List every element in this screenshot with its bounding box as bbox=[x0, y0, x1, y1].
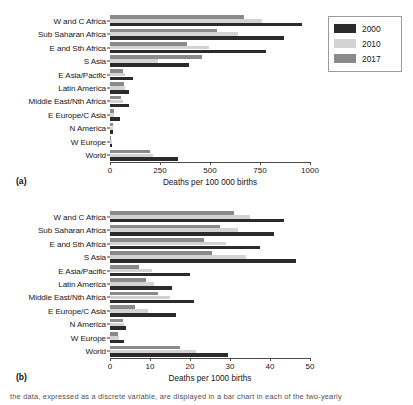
bar-2000-w-and-c-africa bbox=[110, 219, 284, 223]
bar-2000-e-and-sth-africa bbox=[110, 246, 260, 250]
category-row: E Asia/Pacific bbox=[110, 264, 310, 277]
y-axis-label: Sub Saharan Africa bbox=[38, 226, 106, 235]
category-row: E Europe/C Asia bbox=[110, 304, 310, 317]
y-axis-label: W and C Africa bbox=[53, 212, 106, 221]
y-axis-label: World bbox=[86, 347, 107, 356]
x-axis-tick-label: 40 bbox=[266, 362, 275, 371]
category-row: Middle East/Nth Africa bbox=[110, 95, 310, 108]
bar-2000-world bbox=[110, 157, 178, 161]
y-axis-label: Latin America bbox=[58, 83, 106, 92]
y-axis-label: W Europe bbox=[71, 333, 106, 342]
panel-tag-b: (b) bbox=[16, 372, 27, 382]
y-axis-label: Sub Saharan Africa bbox=[38, 30, 106, 39]
y-axis-label: S Asia bbox=[84, 57, 106, 66]
category-row: Latin America bbox=[110, 81, 310, 94]
bar-2000-s-asia bbox=[110, 259, 296, 263]
category-row: W and C Africa bbox=[110, 14, 310, 27]
bar-2000-e-europe-c-asia bbox=[110, 313, 176, 317]
x-axis-tick-label: 50 bbox=[306, 362, 315, 371]
y-axis-label: Latin America bbox=[58, 279, 106, 288]
y-axis-label: N America bbox=[70, 124, 106, 133]
y-axis-label: E Asia/Pacific bbox=[58, 70, 106, 79]
x-axis-tick bbox=[210, 162, 211, 165]
x-axis-tick bbox=[260, 162, 261, 165]
legend-row: 2017 bbox=[334, 51, 395, 66]
category-row: Sub Saharan Africa bbox=[110, 223, 310, 236]
category-row: N America bbox=[110, 122, 310, 135]
bar-2000-latin-america bbox=[110, 90, 129, 94]
x-axis-title-b: Deaths per 1000 births bbox=[110, 374, 310, 383]
x-axis-tick-label: 30 bbox=[226, 362, 235, 371]
x-axis-tick bbox=[270, 358, 271, 361]
x-axis-tick bbox=[150, 358, 151, 361]
category-row: W Europe bbox=[110, 135, 310, 148]
x-axis-tick bbox=[190, 358, 191, 361]
y-axis-label: E Europe/C Asia bbox=[48, 306, 106, 315]
legend-swatch-2010 bbox=[334, 39, 356, 48]
panel-b: W and C AfricaSub Saharan AfricaE and St… bbox=[0, 196, 413, 405]
category-row: E and Sth Africa bbox=[110, 41, 310, 54]
category-row: E Europe/C Asia bbox=[110, 108, 310, 121]
category-row: S Asia bbox=[110, 250, 310, 263]
bar-2000-w-and-c-africa bbox=[110, 23, 302, 27]
bar-2000-e-europe-c-asia bbox=[110, 117, 120, 121]
bar-2000-latin-america bbox=[110, 286, 172, 290]
legend-swatch-2017 bbox=[334, 54, 356, 63]
x-axis-tick bbox=[110, 162, 111, 165]
bar-2000-w-europe bbox=[110, 340, 124, 344]
bar-2000-e-asia-pacific bbox=[110, 273, 190, 277]
bar-2000-world bbox=[110, 353, 228, 357]
y-axis-label: Middle East/Nth Africa bbox=[29, 97, 106, 106]
x-axis-tick-label: 0 bbox=[108, 362, 112, 371]
caption-strip: the data, expressed as a discrete variab… bbox=[10, 392, 406, 403]
y-axis-label: E and Sth Africa bbox=[50, 239, 106, 248]
plot-area-a: W and C AfricaSub Saharan AfricaE and St… bbox=[110, 14, 310, 162]
category-row: N America bbox=[110, 318, 310, 331]
category-row: E and Sth Africa bbox=[110, 237, 310, 250]
y-axis-label: W Europe bbox=[71, 137, 106, 146]
y-axis-label: S Asia bbox=[84, 253, 106, 262]
bar-2000-middle-east-nth-africa bbox=[110, 300, 194, 304]
legend-a: 200020102017 bbox=[328, 16, 402, 72]
category-row: Sub Saharan Africa bbox=[110, 27, 310, 40]
x-axis-tick-label: 10 bbox=[146, 362, 155, 371]
y-axis-label: N America bbox=[70, 320, 106, 329]
x-axis-title-a: Deaths per 100 000 births bbox=[110, 178, 310, 187]
x-axis-tick-label: 750 bbox=[253, 166, 266, 175]
category-row: World bbox=[110, 149, 310, 162]
plot-area-b: W and C AfricaSub Saharan AfricaE and St… bbox=[110, 210, 310, 358]
legend-label: 2010 bbox=[362, 39, 381, 49]
x-axis-tick-label: 250 bbox=[153, 166, 166, 175]
y-axis-label: W and C Africa bbox=[53, 16, 106, 25]
bar-2000-sub-saharan-africa bbox=[110, 232, 274, 236]
category-row: E Asia/Pacific bbox=[110, 68, 310, 81]
bar-2000-s-asia bbox=[110, 63, 189, 67]
legend-row: 2000 bbox=[334, 21, 395, 36]
figure-maternal-and-neonatal-mortality: W and C AfricaSub Saharan AfricaE and St… bbox=[0, 0, 413, 405]
category-row: Middle East/Nth Africa bbox=[110, 291, 310, 304]
category-row: S Asia bbox=[110, 54, 310, 67]
y-axis-label: World bbox=[86, 151, 107, 160]
x-axis-tick-label: 1000 bbox=[301, 166, 319, 175]
bar-2000-n-america bbox=[110, 130, 113, 134]
bar-2000-e-and-sth-africa bbox=[110, 50, 266, 54]
panel-tag-a: (a) bbox=[16, 176, 27, 186]
x-axis-line-b bbox=[110, 358, 310, 359]
legend-label: 2000 bbox=[362, 24, 381, 34]
category-row: World bbox=[110, 345, 310, 358]
bar-2000-w-europe bbox=[110, 144, 112, 148]
x-axis-tick-label: 0 bbox=[108, 166, 112, 175]
panel-a: W and C AfricaSub Saharan AfricaE and St… bbox=[0, 0, 413, 200]
x-axis-tick-label: 20 bbox=[186, 362, 195, 371]
y-axis-label: E Asia/Pacific bbox=[58, 266, 106, 275]
y-axis-label: E and Sth Africa bbox=[50, 43, 106, 52]
bar-2000-n-america bbox=[110, 326, 126, 330]
bar-2000-middle-east-nth-africa bbox=[110, 104, 129, 108]
x-axis-tick-label: 500 bbox=[203, 166, 216, 175]
x-axis-tick bbox=[310, 162, 311, 165]
category-row: Latin America bbox=[110, 277, 310, 290]
legend-label: 2017 bbox=[362, 54, 381, 64]
y-axis-label: E Europe/C Asia bbox=[48, 110, 106, 119]
x-axis-tick bbox=[230, 358, 231, 361]
legend-swatch-2000 bbox=[334, 24, 356, 33]
